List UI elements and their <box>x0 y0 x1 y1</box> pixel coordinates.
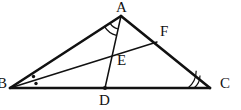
angle-mark-b-dot-upper <box>32 75 35 78</box>
vertex-label-a: A <box>116 0 127 15</box>
vertex-label-b: B <box>0 76 7 91</box>
vertex-label-f: F <box>160 24 168 39</box>
geometry-figure: A B C D E F <box>0 0 241 110</box>
point-dot-d <box>103 86 107 90</box>
angle-mark-b-dot-lower <box>34 82 37 85</box>
vertex-label-e: E <box>117 53 126 68</box>
vertex-label-c: C <box>220 76 230 91</box>
segment-bf-cevian <box>10 42 157 88</box>
angle-mark-a-arc-inner <box>110 23 118 29</box>
vertex-label-d: D <box>99 93 110 108</box>
